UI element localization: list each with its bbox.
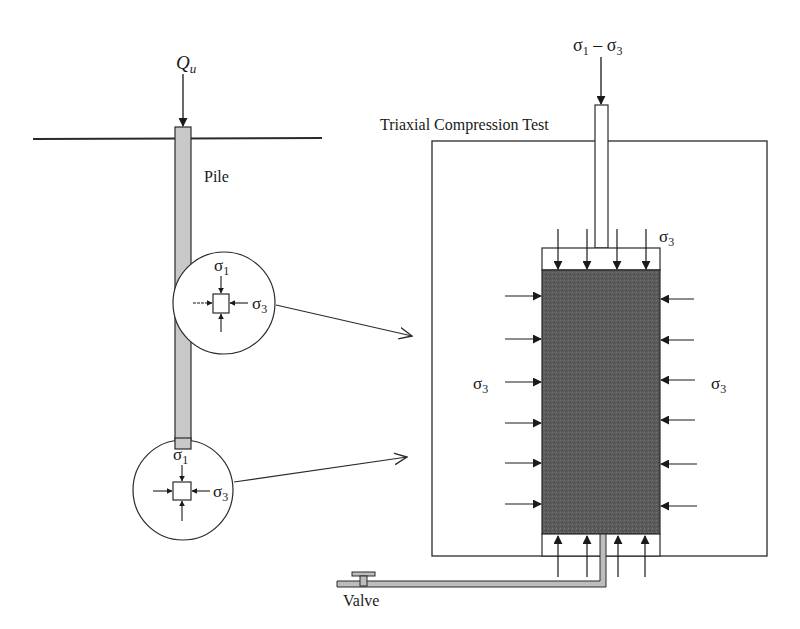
pile-label: Pile xyxy=(204,168,229,185)
right-lateral-arrows xyxy=(661,299,697,506)
test-title: Triaxial Compression Test xyxy=(380,116,549,134)
right-sigma3-label: σ3 xyxy=(711,374,726,396)
top-cap xyxy=(542,248,660,270)
upper-element-leader-arrow xyxy=(276,305,412,336)
lower-element-square xyxy=(173,482,191,500)
triaxial-test-section: σ1 – σ3 Triaxial Compression Test σ3 xyxy=(337,35,767,609)
valve-label: Valve xyxy=(343,592,379,609)
deviator-stress-label: σ1 – σ3 xyxy=(573,35,622,58)
valve-handle-icon[interactable] xyxy=(352,572,375,576)
left-lateral-arrows xyxy=(505,296,541,504)
cap-sigma3-label: σ3 xyxy=(659,227,674,249)
load-label: Qu xyxy=(176,52,197,76)
valve-stem-icon xyxy=(360,576,367,586)
upper-element-square xyxy=(213,294,229,313)
soil-sample xyxy=(542,270,660,534)
lower-element-leader-arrow xyxy=(234,457,407,482)
upper-soil-element: σ1 σ3 xyxy=(173,252,275,354)
diagram-canvas: Qu Pile σ1 σ3 σ1 xyxy=(0,0,800,629)
pile-section: Qu Pile σ1 σ3 σ1 xyxy=(33,52,412,540)
lower-soil-element: σ1 σ3 xyxy=(133,438,233,540)
left-sigma3-label: σ3 xyxy=(473,374,488,396)
pile-triaxial-diagram: Qu Pile σ1 σ3 σ1 xyxy=(0,0,800,629)
loading-piston xyxy=(595,105,608,248)
